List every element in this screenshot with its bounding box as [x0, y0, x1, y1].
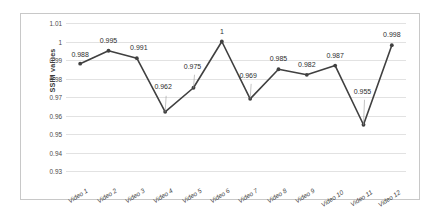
- y-axis-tick-label: 0.98: [50, 75, 62, 82]
- x-axis-tick-label: Video 2: [103, 182, 125, 200]
- data-point-label: 0.982: [298, 61, 316, 68]
- y-axis-tick-label: 1.01: [50, 20, 62, 27]
- data-point-label: 0.991: [130, 44, 148, 51]
- series-line: [66, 23, 406, 171]
- y-axis-tick-label: 0.97: [50, 94, 62, 101]
- y-axis-tick-label: 0.93: [50, 168, 62, 175]
- x-axis-tick-label: Video 5: [188, 182, 210, 200]
- ssim-line-chart: SSIM values 0.930.940.950.960.970.980.99…: [0, 0, 434, 214]
- y-axis-tick-label: 0.95: [50, 131, 62, 138]
- x-axis-tick-label: Video 9: [301, 182, 323, 200]
- data-point-label: 0.955: [354, 88, 372, 95]
- x-axis-tick-label: Video 6: [216, 182, 238, 200]
- plot-area: 0.930.940.950.960.970.980.9911.01 Video …: [66, 23, 406, 171]
- y-axis-title: SSIM values: [48, 26, 57, 116]
- data-point-label: 1: [220, 28, 224, 35]
- data-point-label: 0.975: [184, 63, 202, 70]
- y-axis-tick-label: 0.96: [50, 112, 62, 119]
- x-axis-tick-label: Video 8: [273, 182, 295, 200]
- x-axis-tick-label: Video 3: [131, 182, 153, 200]
- x-axis-tick-label: Video 4: [160, 182, 182, 200]
- data-point-label: 0.962: [154, 83, 172, 90]
- data-point-label: 0.995: [100, 37, 118, 44]
- gridline: [66, 171, 406, 172]
- data-point-label: 0.969: [239, 72, 257, 79]
- y-axis-tick-label: 0.94: [50, 149, 62, 156]
- x-axis-tick-label: Video 10: [329, 183, 354, 203]
- y-axis-tick-label: 1: [58, 38, 62, 45]
- data-point-label: 0.985: [270, 55, 288, 62]
- data-point-label: 0.988: [71, 51, 89, 58]
- chart-frame: SSIM values 0.930.940.950.960.970.980.99…: [20, 13, 420, 200]
- y-axis-tick-label: 0.99: [50, 57, 62, 64]
- data-point-label: 0.998: [383, 31, 401, 38]
- data-point-label: 0.987: [326, 52, 344, 59]
- x-axis-tick-label: Video 7: [245, 182, 267, 200]
- x-axis-tick-label: Video 12: [385, 183, 410, 203]
- x-axis-tick-label: Video 11: [357, 183, 381, 202]
- x-axis-tick-label: Video 1: [75, 182, 97, 200]
